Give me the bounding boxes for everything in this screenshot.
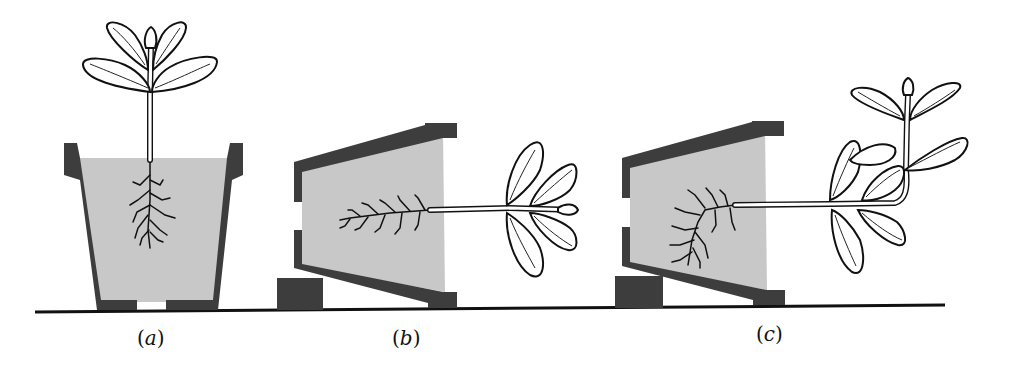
panel-c-caption: (c): [756, 322, 783, 346]
panel-c-letter: c: [764, 322, 775, 346]
panel-c-illustration: [615, 78, 968, 308]
panel-a-letter: a: [145, 326, 157, 350]
panel-a-illustration: [64, 22, 243, 310]
support-block-b: [277, 278, 323, 310]
panel-b-illustration: [277, 123, 578, 310]
panel-b-caption: (b): [392, 326, 420, 350]
support-block-c: [615, 276, 663, 308]
panel-b-letter: b: [400, 326, 413, 350]
panel-a-caption: (a): [137, 326, 165, 350]
gravitropism-figure: [0, 0, 1015, 372]
